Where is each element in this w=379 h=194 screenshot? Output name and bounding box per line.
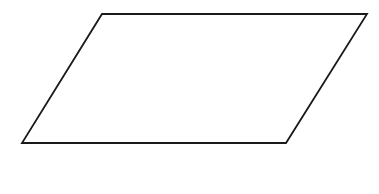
parallelogram-shape (22, 14, 367, 143)
figure-canvas (0, 0, 379, 194)
parallelogram-drawing (0, 0, 379, 194)
